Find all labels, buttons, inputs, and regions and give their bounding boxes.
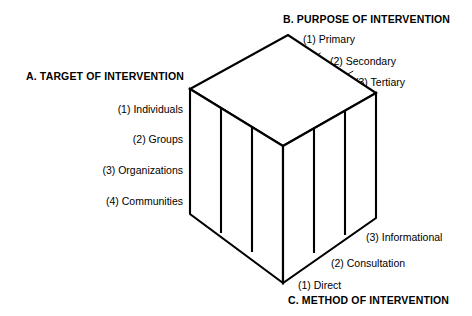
intervention-cube bbox=[0, 0, 472, 316]
diagram-canvas: B. PURPOSE OF INTERVENTION A. TARGET OF … bbox=[0, 0, 472, 316]
